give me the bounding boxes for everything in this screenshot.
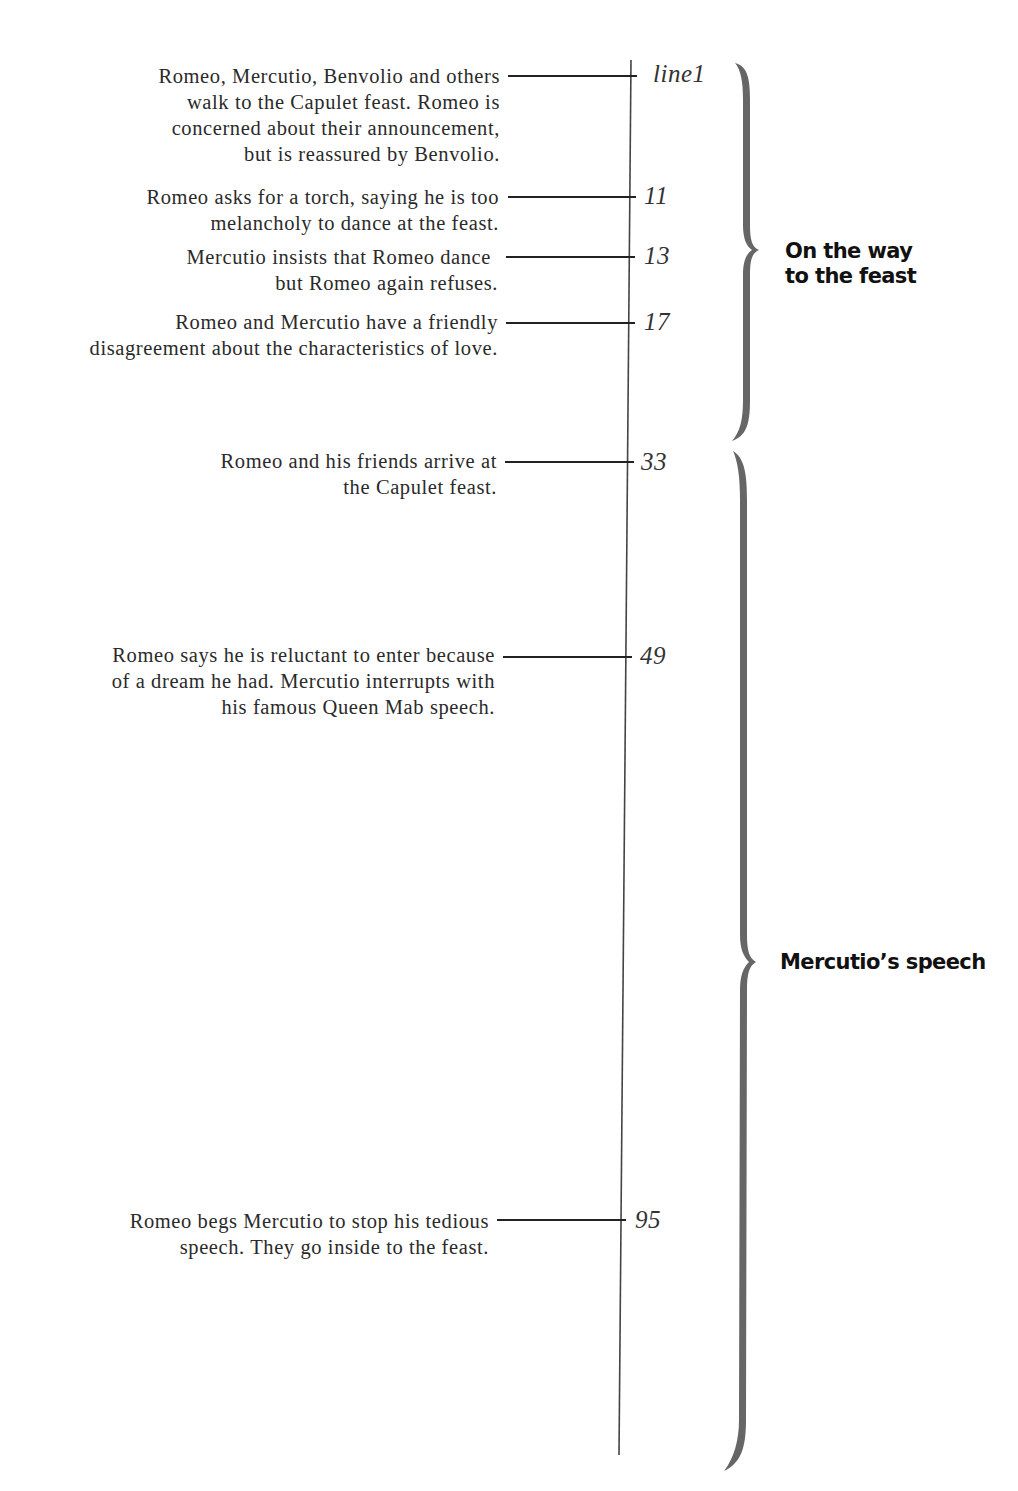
section-label-line: Mercutio’s speech [780, 950, 986, 975]
section-label-line: On the way [785, 239, 916, 264]
event-description: Romeo says he is reluctant to enter beca… [112, 642, 495, 720]
event-text-line: Romeo and his friends arrive at [221, 448, 497, 474]
section-label-line: to the feast [785, 264, 916, 289]
event-description-cont: but Romeo again refuses. [275, 270, 498, 296]
event-text-line: melancholy to dance at the feast. [146, 210, 499, 236]
event-description: Romeo and Mercutio have a friendly disag… [90, 309, 498, 361]
section-label-on-the-way: On the way to the feast [785, 239, 916, 289]
brace-mercutios-speech-icon [724, 451, 756, 1471]
event-text-line: the Capulet feast. [221, 474, 497, 500]
event-text-line: but Romeo again refuses. [275, 270, 498, 296]
event-text-line: Romeo asks for a torch, saying he is too [146, 184, 499, 210]
event-text-line: speech. They go inside to the feast. [130, 1234, 489, 1260]
line-number-label: 13 [644, 242, 670, 270]
event-text-line: walk to the Capulet feast. Romeo is [158, 89, 500, 115]
event-text-line: Romeo and Mercutio have a friendly [90, 309, 498, 335]
line-number-label: 11 [644, 182, 668, 210]
brace-on-the-way-icon [732, 63, 759, 441]
line-number-label: 33 [641, 448, 667, 476]
event-text-line: his famous Queen Mab speech. [112, 694, 495, 720]
event-text-line: but is reassured by Benvolio. [158, 141, 500, 167]
line-number-label: 17 [644, 308, 670, 336]
event-description: Romeo, Mercutio, Benvolio and others wal… [158, 63, 500, 167]
event-description: Mercutio insists that Romeo dance [187, 244, 491, 270]
line-number-label: 49 [640, 642, 666, 670]
event-text-line: of a dream he had. Mercutio interrupts w… [112, 668, 495, 694]
event-description: Romeo and his friends arrive at the Capu… [221, 448, 497, 500]
event-text-line: concerned about their announcement, [158, 115, 500, 141]
event-description: Romeo begs Mercutio to stop his tedious … [130, 1208, 489, 1260]
event-text-line: Romeo says he is reluctant to enter beca… [112, 642, 495, 668]
event-text-line: Romeo, Mercutio, Benvolio and others [158, 63, 500, 89]
event-text-line: disagreement about the characteristics o… [90, 335, 498, 361]
timeline-axis [619, 60, 631, 1455]
section-label-mercutios-speech: Mercutio’s speech [780, 950, 986, 975]
event-description: Romeo asks for a torch, saying he is too… [146, 184, 499, 236]
timeline-diagram: Romeo, Mercutio, Benvolio and others wal… [0, 0, 1018, 1491]
line-number-label: line1 [653, 60, 706, 88]
line-number-label: 95 [635, 1206, 661, 1234]
event-text-line: Mercutio insists that Romeo dance [187, 244, 491, 270]
event-text-line: Romeo begs Mercutio to stop his tedious [130, 1208, 489, 1234]
